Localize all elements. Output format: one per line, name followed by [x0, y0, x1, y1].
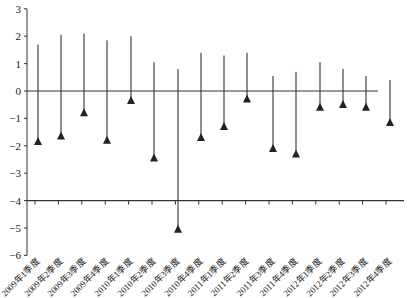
stem-2	[57, 35, 65, 140]
y-tick-label: −2	[9, 140, 21, 152]
y-tick-label: −1	[9, 112, 21, 124]
y-tick-label: 2	[16, 30, 22, 42]
triangle-marker	[292, 149, 300, 157]
triangle-marker	[34, 137, 42, 145]
stems	[34, 33, 394, 232]
stem-3	[80, 33, 88, 116]
stem-12	[292, 72, 300, 158]
triangle-marker	[386, 118, 394, 126]
y-tick-label: 3	[16, 3, 22, 15]
stem-6	[150, 62, 158, 161]
stem-14	[339, 69, 347, 108]
stem-16	[386, 80, 394, 126]
triangle-marker	[220, 122, 228, 130]
triangle-marker	[269, 144, 277, 152]
stem-8	[197, 53, 205, 141]
y-tick-label: −4	[9, 195, 21, 207]
x-axis-labels: 2009年1季度2009年2季度2009年3季度2009年4季度2010年1季度…	[0, 256, 393, 298]
stem-15	[362, 76, 370, 111]
stem-13	[316, 62, 324, 111]
stem-7	[174, 69, 182, 233]
stem-5	[127, 36, 135, 104]
stem-10	[243, 53, 251, 103]
triangle-marker	[174, 225, 182, 233]
x-axis	[27, 201, 408, 205]
triangle-marker	[362, 103, 370, 111]
stem-11	[269, 76, 277, 152]
y-tick-label: 1	[16, 58, 22, 70]
triangle-marker	[127, 96, 135, 104]
triangle-marker	[80, 108, 88, 116]
stem-9	[220, 55, 228, 130]
y-axis: 3210−1−2−3−4−5−6	[9, 3, 27, 262]
stem-1	[34, 44, 42, 145]
triangle-marker	[103, 136, 111, 144]
y-tick-label: 0	[16, 85, 22, 97]
y-tick-label: −5	[9, 222, 21, 234]
y-tick-label: −3	[9, 167, 21, 179]
triangle-marker	[197, 133, 205, 141]
triangle-marker	[243, 95, 251, 103]
triangle-marker	[150, 154, 158, 162]
y-tick-label: −6	[9, 249, 21, 261]
stem-chart: 3210−1−2−3−4−5−6 2009年1季度2009年2季度2009年3季…	[0, 0, 408, 298]
triangle-marker	[57, 132, 65, 140]
stem-4	[103, 40, 111, 143]
triangle-marker	[339, 100, 347, 108]
triangle-marker	[316, 103, 324, 111]
